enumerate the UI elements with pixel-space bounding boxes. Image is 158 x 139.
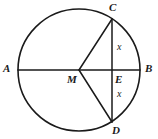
segment-length-label-ed: x	[117, 89, 121, 99]
segment-radius-md	[79, 70, 112, 122]
point-label-e: E	[115, 74, 122, 85]
point-label-a: A	[3, 63, 10, 74]
segment-length-label-ce: x	[117, 42, 121, 52]
point-label-b: B	[145, 63, 152, 74]
point-label-m: M	[67, 74, 77, 85]
circle-geometry-figure: A B C D M E x x	[0, 0, 158, 139]
point-label-c: C	[109, 2, 116, 13]
point-label-d: D	[112, 125, 120, 136]
segment-radius-mc	[79, 19, 112, 70]
geometry-canvas	[0, 0, 158, 139]
